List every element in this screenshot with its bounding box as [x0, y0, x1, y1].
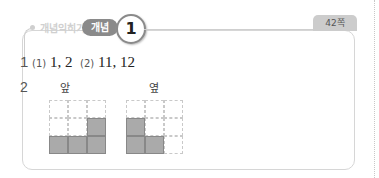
answer-1: 1 (1) 1, 2 (2) 11, 12 — [20, 53, 135, 71]
empty-cell — [126, 100, 145, 118]
empty-cell — [145, 100, 164, 118]
empty-cell — [164, 118, 183, 136]
empty-cell — [49, 100, 68, 118]
part-value: 1, 2 — [50, 54, 73, 70]
filled-cell — [87, 136, 106, 154]
empty-cell — [87, 100, 106, 118]
section-label: 개념익히기 — [40, 20, 85, 35]
page-reference: 42쪽 — [313, 15, 357, 31]
empty-cell — [164, 136, 183, 154]
filled-cell — [68, 136, 87, 154]
question-number: 1 — [20, 53, 28, 70]
empty-cell — [164, 100, 183, 118]
empty-cell — [145, 118, 164, 136]
side-view-grid — [126, 100, 183, 154]
empty-cell — [68, 100, 87, 118]
filled-cell — [126, 136, 145, 154]
empty-cell — [49, 118, 68, 136]
header-divider — [144, 29, 334, 30]
filled-cell — [49, 136, 68, 154]
filled-cell — [145, 136, 164, 154]
front-view-grid — [49, 100, 106, 154]
part-label: (2) — [80, 58, 94, 69]
filled-cell — [87, 118, 106, 136]
empty-cell — [68, 118, 87, 136]
side-view-label: 옆 — [149, 79, 159, 95]
question-number: 2 — [20, 79, 28, 95]
part-label: (1) — [32, 58, 46, 69]
connector-dot — [30, 25, 35, 30]
concept-number: 1 — [116, 14, 146, 44]
concept-tag: 개념 — [82, 19, 118, 36]
page-margin-line — [374, 0, 375, 178]
filled-cell — [126, 118, 145, 136]
front-view-label: 앞 — [60, 79, 70, 95]
part-value: 11, 12 — [98, 54, 135, 70]
